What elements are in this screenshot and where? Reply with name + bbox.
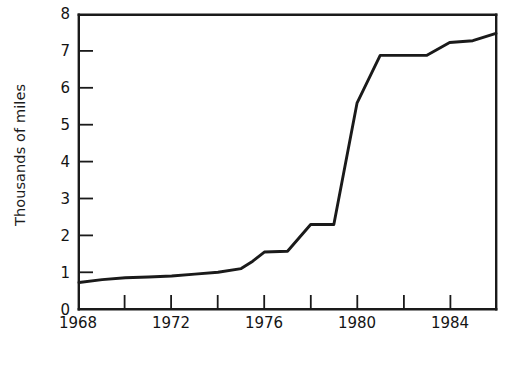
y-tick-label-7: 7 xyxy=(60,44,70,59)
y-tick-label-6: 6 xyxy=(60,81,70,96)
y-axis-ticks xyxy=(79,51,93,272)
x-tick-label-1984: 1984 xyxy=(431,316,469,331)
y-tick-label-2: 2 xyxy=(60,229,70,244)
x-tick-label-1968: 1968 xyxy=(59,316,97,331)
data-line-series xyxy=(79,33,496,282)
y-axis-title: Thousands of miles xyxy=(0,0,40,310)
plot-area xyxy=(78,14,497,310)
plot-svg xyxy=(78,14,497,310)
y-tick-label-4: 4 xyxy=(60,155,70,170)
line-chart-figure: Thousands of miles 0 1 2 3 4 5 6 7 8 196… xyxy=(0,0,511,365)
y-axis-tick-labels: 0 1 2 3 4 5 6 7 8 xyxy=(40,0,74,330)
axis-frame xyxy=(79,15,496,309)
x-axis-ticks xyxy=(125,295,451,308)
y-tick-label-1: 1 xyxy=(60,266,70,281)
y-axis-title-text: Thousands of miles xyxy=(12,84,28,226)
y-tick-label-5: 5 xyxy=(60,118,70,133)
x-axis-tick-labels: 1968 1972 1976 1980 1984 xyxy=(0,316,511,346)
y-tick-label-8: 8 xyxy=(60,7,70,22)
y-tick-label-3: 3 xyxy=(60,192,70,207)
x-tick-label-1980: 1980 xyxy=(338,316,376,331)
x-tick-label-1976: 1976 xyxy=(245,316,283,331)
x-tick-label-1972: 1972 xyxy=(152,316,190,331)
